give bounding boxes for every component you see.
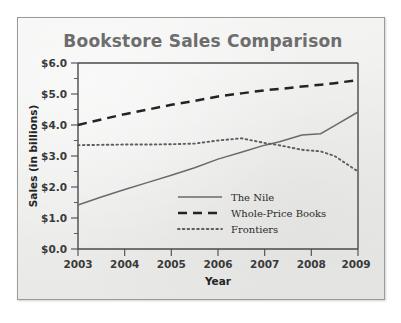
legend-label-frontiers: Frontiers	[231, 224, 278, 235]
y-axis-ticks	[71, 63, 78, 249]
x-tick-label-2003: 2003	[63, 258, 92, 270]
x-axis-ticks	[78, 249, 358, 256]
chart-title: Bookstore Sales Comparison	[63, 31, 342, 51]
series-line-frontiers	[78, 138, 358, 171]
y-tick-label-6: $6.0	[41, 57, 67, 69]
x-tick-label-2005: 2005	[157, 258, 186, 270]
x-tick-label-2007: 2007	[250, 258, 279, 270]
x-tick-label-2009: 2009	[341, 258, 370, 270]
line-chart: Bookstore Sales Comparison $0.0 $1.0	[0, 0, 401, 323]
legend-label-the-nile: The Nile	[231, 192, 274, 203]
chart-figure: Bookstore Sales Comparison $0.0 $1.0	[0, 0, 401, 323]
y-tick-label-3: $3.0	[41, 150, 67, 162]
series-line-the-nile	[78, 112, 358, 205]
x-tick-label-2004: 2004	[110, 258, 139, 270]
legend-label-whole-price-books: Whole-Price Books	[231, 208, 326, 219]
x-axis-title: Year	[204, 275, 232, 287]
y-tick-label-5: $5.0	[41, 88, 67, 100]
series-line-whole-price-books	[78, 80, 358, 125]
chart-legend: The Nile Whole-Price Books Frontiers	[178, 192, 326, 235]
y-tick-label-2: $2.0	[41, 181, 67, 193]
y-tick-label-1: $1.0	[41, 212, 67, 224]
y-axis-title: Sales (in billions)	[27, 105, 39, 207]
x-tick-label-2006: 2006	[203, 258, 232, 270]
x-tick-label-2008: 2008	[297, 258, 326, 270]
y-tick-label-0: $0.0	[41, 243, 67, 255]
y-tick-label-4: $4.0	[41, 119, 67, 131]
